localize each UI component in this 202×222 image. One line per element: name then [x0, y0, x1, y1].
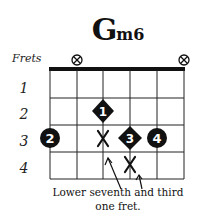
svg-text:4: 4 — [152, 131, 161, 146]
nut — [49, 67, 185, 71]
finger-marker-1: 1 — [92, 99, 114, 123]
svg-text:1: 1 — [99, 105, 107, 119]
annotation-line-1: Lower seventh and third — [50, 185, 186, 199]
finger-marker-4: 4 — [147, 128, 167, 148]
muted-string-icon — [179, 55, 189, 65]
finger-marker-3: 3 — [118, 126, 142, 150]
annotation-line-2: one fret. — [50, 199, 186, 213]
finger-marker-2: 2 — [40, 128, 60, 148]
svg-text:3: 3 — [126, 132, 134, 146]
svg-text:2: 2 — [45, 131, 54, 146]
muted-string-icon — [72, 55, 82, 65]
